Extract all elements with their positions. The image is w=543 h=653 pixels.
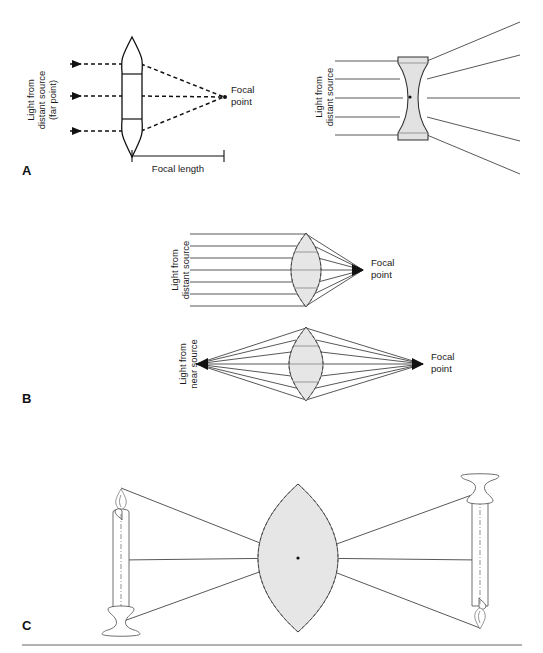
ray-out-6 [316, 364, 423, 388]
panel-a-letter: A [22, 163, 32, 178]
b-top-source-line1: Light from [169, 249, 180, 291]
a-focal-point-line1: Focal [231, 84, 254, 95]
b-top-focal-line1: Focal [371, 257, 394, 268]
a-right-source-label: Light from distant source [313, 68, 335, 126]
ray-out-1 [427, 22, 520, 61]
biconvex-lens-a [122, 37, 143, 157]
ray-in-6 [196, 364, 296, 388]
concave-lens-distant-source-diagram: Light from distant source [313, 22, 520, 174]
panel-b: B [22, 233, 454, 406]
a-left-source-line3: (far point) [47, 80, 58, 120]
b-bottom-focal-marker [412, 358, 424, 370]
ray-in-2 [196, 340, 296, 364]
b-bottom-source-line1: Light from [177, 343, 188, 385]
candle-object-upright [102, 489, 140, 636]
b-bottom-focal-line1: Focal [431, 351, 454, 362]
ray-out-2 [316, 340, 423, 364]
a-focal-point-line2: point [231, 96, 252, 107]
biconcave-lens-a [398, 57, 428, 140]
ray-out-7 [306, 364, 423, 400]
biconvex-lens-b-top [291, 233, 321, 307]
ray-out-4 [427, 117, 520, 141]
b-bottom-source-label: Light from near source [177, 339, 199, 389]
ray-out-5 [427, 135, 520, 174]
a-focal-point-label: Focal point [231, 84, 254, 107]
a-left-source-line2: distant source [36, 71, 47, 129]
lens-body [122, 37, 143, 157]
a-right-source-line2: distant source [324, 68, 335, 126]
focal-length-scale: Focal length [132, 150, 224, 174]
b-bottom-focal-point-label: Focal point [431, 351, 454, 374]
panel-b-letter: B [22, 391, 31, 406]
b-bottom-refracted-rays [306, 328, 424, 400]
b-top-incoming-rays [190, 234, 306, 306]
ray-refracted-bottom [141, 97, 224, 131]
b-top-focal-line2: point [371, 269, 392, 280]
ray-refracted-top [141, 64, 224, 97]
a-left-source-line1: Light from [25, 79, 36, 121]
lens-body [398, 57, 428, 140]
concave-diverging-rays [427, 22, 520, 174]
a-right-source-line1: Light from [313, 76, 324, 118]
ray-out-5 [321, 364, 423, 376]
candle-flame [116, 489, 127, 510]
ray-in-5 [196, 364, 291, 376]
b-top-source-label: Light from distant source [169, 241, 191, 299]
b-top-focal-marker [352, 264, 364, 276]
image-inversion-diagram [102, 474, 499, 637]
ray-arrowhead-top [72, 60, 82, 68]
optics-lens-figure: A [0, 0, 543, 653]
panel-c-letter: C [22, 618, 32, 633]
b-bottom-source-line2: near source [188, 339, 199, 389]
panel-a: A [22, 22, 520, 178]
biconvex-lens-b-bottom [289, 327, 323, 401]
accommodation-distant-source-diagram: Light from distant source Focal point [169, 233, 394, 307]
ray-in-3 [196, 352, 291, 364]
accommodation-near-source-diagram: Light from near source Focal point [177, 327, 454, 401]
panel-c: C [22, 474, 522, 645]
candlestick-holder [102, 606, 140, 636]
refracted-rays-group [141, 64, 227, 131]
ray-out-3 [321, 352, 423, 364]
ray-arrowhead-bottom [72, 127, 82, 135]
b-bottom-focal-line2: point [431, 363, 452, 374]
candlestick-holder [461, 474, 499, 504]
ray-arrowhead-middle [72, 92, 82, 100]
b-top-source-line2: distant source [180, 241, 191, 299]
ray-refracted-middle [141, 96, 224, 97]
lens-center-marker [296, 556, 299, 559]
focal-length-label: Focal length [152, 163, 204, 174]
a-left-source-label: Light from distant source (far point) [25, 71, 58, 129]
lens-center-marker [408, 95, 411, 98]
b-top-focal-point-label: Focal point [371, 257, 394, 280]
focal-point-marker [223, 95, 227, 99]
ray-out-1 [306, 328, 423, 364]
concave-incoming-rays [335, 61, 403, 135]
ray-out-2 [427, 55, 520, 79]
convex-lens-distant-source-diagram: Focal length Light from distant source (… [25, 37, 254, 174]
figure-canvas: A [0, 0, 543, 653]
biconvex-lens-c [258, 484, 338, 632]
candle-flame [475, 608, 486, 629]
